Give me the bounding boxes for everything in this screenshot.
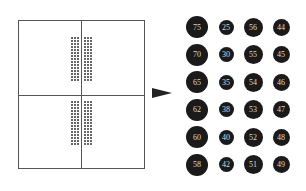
numbered-circle: 54 bbox=[244, 73, 263, 92]
dot bbox=[77, 110, 79, 112]
dot bbox=[77, 125, 79, 127]
dot bbox=[90, 122, 92, 124]
dot bbox=[77, 76, 79, 78]
dot bbox=[84, 113, 86, 115]
dot bbox=[74, 55, 76, 57]
dot bbox=[74, 61, 76, 63]
dot bbox=[71, 119, 73, 121]
dot bbox=[84, 137, 86, 139]
dot bbox=[87, 107, 89, 109]
dot bbox=[77, 143, 79, 145]
dot bbox=[71, 113, 73, 115]
dot bbox=[74, 110, 76, 112]
dot bbox=[77, 73, 79, 75]
dot bbox=[84, 43, 86, 45]
dot bbox=[84, 107, 86, 109]
dot bbox=[71, 137, 73, 139]
dot bbox=[87, 55, 89, 57]
dot bbox=[87, 110, 89, 112]
dot bbox=[87, 37, 89, 39]
dot bbox=[74, 131, 76, 133]
dot bbox=[71, 43, 73, 45]
dot bbox=[77, 61, 79, 63]
dot bbox=[74, 143, 76, 145]
dot bbox=[90, 76, 92, 78]
dot bbox=[74, 43, 76, 45]
dot bbox=[71, 122, 73, 124]
dot bbox=[90, 58, 92, 60]
dot bbox=[77, 67, 79, 69]
dot bbox=[87, 125, 89, 127]
numbered-circle: 48 bbox=[273, 129, 290, 146]
dot bbox=[87, 79, 89, 81]
numbered-circle: 42 bbox=[219, 157, 234, 172]
dot bbox=[90, 140, 92, 142]
dot bbox=[84, 76, 86, 78]
dot bbox=[71, 64, 73, 66]
dot bbox=[87, 52, 89, 54]
dot bbox=[71, 110, 73, 112]
dot bbox=[77, 122, 79, 124]
dot bbox=[71, 58, 73, 60]
dot bbox=[71, 131, 73, 133]
dot bbox=[71, 134, 73, 136]
dot bbox=[74, 64, 76, 66]
dot bbox=[74, 104, 76, 106]
dot bbox=[90, 49, 92, 51]
dot bbox=[77, 70, 79, 72]
dot bbox=[77, 55, 79, 57]
numbered-circle: 53 bbox=[244, 100, 263, 119]
dot bbox=[90, 101, 92, 103]
dot bbox=[87, 116, 89, 118]
dot bbox=[71, 128, 73, 130]
dot bbox=[84, 128, 86, 130]
dot bbox=[90, 104, 92, 106]
dot bbox=[74, 116, 76, 118]
dot bbox=[90, 116, 92, 118]
dot bbox=[87, 131, 89, 133]
numbered-circle: 75 bbox=[186, 16, 208, 38]
dot bbox=[90, 64, 92, 66]
dot bbox=[84, 67, 86, 69]
dot bbox=[71, 73, 73, 75]
dot bbox=[90, 79, 92, 81]
dot bbox=[90, 37, 92, 39]
dot bbox=[77, 119, 79, 121]
dot bbox=[87, 46, 89, 48]
dot bbox=[77, 49, 79, 51]
dot bbox=[74, 58, 76, 60]
numbered-circle: 58 bbox=[186, 154, 208, 176]
dot bbox=[77, 43, 79, 45]
numbered-circle: 35 bbox=[219, 75, 234, 90]
dot bbox=[74, 49, 76, 51]
dot bbox=[74, 37, 76, 39]
dot bbox=[90, 67, 92, 69]
dot bbox=[71, 125, 73, 127]
dot bbox=[90, 137, 92, 139]
numbered-circles-grid: 7525564470305545653554466238534760405248… bbox=[186, 16, 304, 186]
dot bbox=[87, 101, 89, 103]
dot bbox=[84, 40, 86, 42]
numbered-circle: 62 bbox=[186, 99, 208, 121]
dot bbox=[77, 40, 79, 42]
dot bbox=[87, 119, 89, 121]
dot bbox=[77, 101, 79, 103]
dot bbox=[77, 64, 79, 66]
dot bbox=[74, 73, 76, 75]
numbered-circle: 44 bbox=[273, 19, 290, 36]
dot bbox=[84, 110, 86, 112]
dot bbox=[90, 73, 92, 75]
dot bbox=[71, 76, 73, 78]
numbered-circle: 46 bbox=[273, 74, 290, 91]
dot bbox=[87, 122, 89, 124]
arrow-right-icon bbox=[152, 88, 172, 98]
dot bbox=[71, 79, 73, 81]
dot bbox=[84, 134, 86, 136]
dot bbox=[90, 52, 92, 54]
dot bbox=[87, 128, 89, 130]
dot bbox=[77, 116, 79, 118]
dot bbox=[74, 67, 76, 69]
dot bbox=[77, 52, 79, 54]
numbered-circle: 47 bbox=[273, 101, 290, 118]
dot-cluster-bottom-left bbox=[71, 101, 79, 145]
